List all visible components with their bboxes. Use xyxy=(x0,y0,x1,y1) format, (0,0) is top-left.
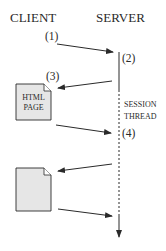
html-page-document-icon: HTML PAGE xyxy=(16,84,51,120)
server-header: SERVER xyxy=(96,10,145,25)
html-page-label-line1: HTML xyxy=(22,93,45,102)
session-diagram: CLIENT SERVER (1) (2) (3) (4) SESSION TH… xyxy=(0,0,166,251)
session-thread-label-line1: SESSION xyxy=(124,100,157,109)
response-arrow-1 xyxy=(58,81,112,88)
step-1-label: (1) xyxy=(45,30,59,43)
request-arrow-2 xyxy=(56,125,111,133)
step-3-label: (3) xyxy=(46,70,60,83)
client-header: CLIENT xyxy=(10,10,56,25)
blank-document-icon xyxy=(16,168,51,211)
request-arrow-3 xyxy=(58,209,112,216)
html-page-label-line2: PAGE xyxy=(23,103,43,112)
session-thread-label-line2: THREAD xyxy=(124,112,157,121)
response-arrow-2 xyxy=(58,164,112,171)
request-arrow-1 xyxy=(57,44,113,52)
step-2-label: (2) xyxy=(122,52,136,65)
step-4-label: (4) xyxy=(122,127,136,140)
